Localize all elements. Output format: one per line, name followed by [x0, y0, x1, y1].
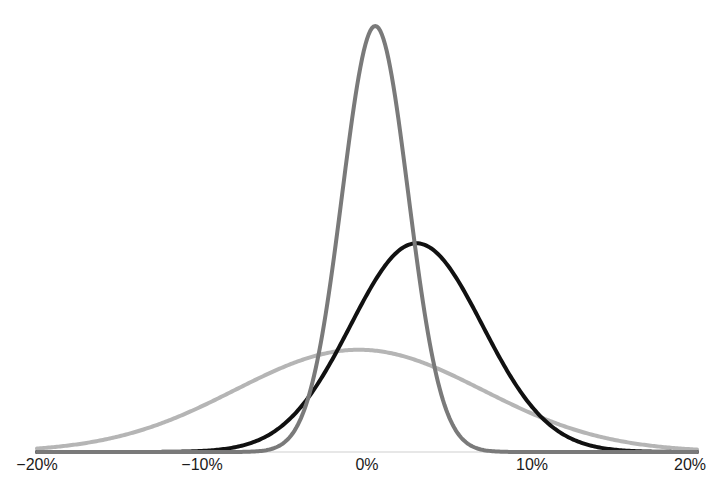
wide-distribution-curve — [37, 350, 697, 450]
x-tick-label: 20% — [674, 456, 706, 474]
x-tick-label: 10% — [516, 456, 548, 474]
shifted-distribution-curve — [37, 243, 697, 452]
distribution-chart — [0, 0, 716, 501]
x-tick-label: −10% — [181, 456, 222, 474]
narrow-distribution-curve — [37, 26, 697, 452]
x-tick-label: −20% — [16, 456, 57, 474]
x-tick-label: 0% — [355, 456, 378, 474]
